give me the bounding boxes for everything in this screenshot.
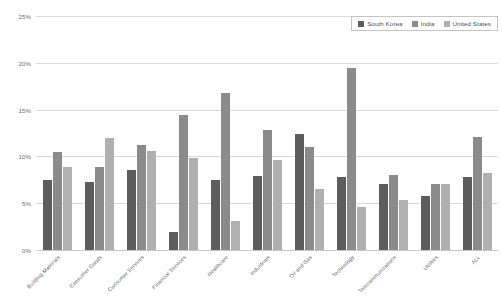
- y-tick-label: 20%: [19, 59, 32, 66]
- bar: [399, 200, 408, 250]
- x-axis-label: Building Materials: [26, 254, 62, 290]
- bar-group: [162, 16, 204, 250]
- bar: [169, 232, 178, 250]
- x-axis-label: Oil and Gas: [288, 254, 313, 279]
- bar: [211, 180, 220, 250]
- legend-label: India: [421, 20, 435, 27]
- y-axis: 0%5%10%15%20%25%: [0, 0, 36, 250]
- bar: [347, 68, 356, 250]
- x-label-cell: Healthcare: [204, 252, 246, 308]
- bar-group: [246, 16, 288, 250]
- x-axis-label: Healthcare: [206, 254, 229, 277]
- legend-swatch-icon: [358, 21, 364, 27]
- bar: [137, 145, 146, 250]
- bar: [127, 170, 136, 250]
- y-tick-label: 15%: [19, 106, 32, 113]
- bar: [473, 137, 482, 250]
- bar: [263, 130, 272, 250]
- bar: [221, 93, 230, 250]
- bar: [431, 184, 440, 250]
- x-axis-label: ALL: [470, 254, 481, 265]
- bar: [463, 177, 472, 250]
- bar: [253, 176, 262, 250]
- bar: [305, 147, 314, 250]
- bar-groups: [36, 16, 498, 250]
- bar-group: [36, 16, 78, 250]
- bar: [105, 138, 114, 250]
- bar: [189, 158, 198, 250]
- x-axis-label: Industrials: [249, 254, 271, 276]
- bar-group: [120, 16, 162, 250]
- bar: [379, 184, 388, 250]
- y-tick-label: 5%: [22, 200, 31, 207]
- legend-label: South Korea: [367, 20, 403, 27]
- bar-chart: 0%5%10%15%20%25% Building MaterialsConsu…: [0, 0, 502, 308]
- bar-group: [414, 16, 456, 250]
- chart-legend: South KoreaIndiaUnited States: [351, 16, 498, 31]
- x-label-cell: Utilities: [414, 252, 456, 308]
- x-axis-label: Technology: [331, 254, 355, 278]
- x-label-cell: Oil and Gas: [288, 252, 330, 308]
- x-axis-label: Utilities: [422, 254, 439, 271]
- bar: [421, 196, 430, 250]
- legend-item[interactable]: United States: [444, 20, 491, 27]
- bar: [85, 182, 94, 250]
- bar: [63, 167, 72, 250]
- x-label-cell: ALL: [456, 252, 498, 308]
- legend-swatch-icon: [412, 21, 418, 27]
- x-label-cell: Financial Services: [162, 252, 204, 308]
- bar: [315, 189, 324, 250]
- legend-item[interactable]: South Korea: [358, 20, 403, 27]
- bar: [179, 115, 188, 250]
- bar: [147, 151, 156, 250]
- bar: [483, 173, 492, 250]
- bar: [389, 175, 398, 250]
- y-tick-label: 25%: [19, 13, 32, 20]
- bar: [357, 207, 366, 250]
- bar-group: [456, 16, 498, 250]
- bar: [337, 177, 346, 250]
- bar: [43, 180, 52, 250]
- axis-baseline: [36, 250, 498, 251]
- bar-group: [372, 16, 414, 250]
- bar-group: [78, 16, 120, 250]
- bar: [441, 184, 450, 250]
- x-label-cell: Industrials: [246, 252, 288, 308]
- bar: [95, 167, 104, 250]
- bar: [273, 160, 282, 250]
- legend-swatch-icon: [444, 21, 450, 27]
- bar-group: [288, 16, 330, 250]
- plot-area: [36, 16, 498, 250]
- y-tick-label: 0%: [22, 247, 31, 254]
- bar: [53, 152, 62, 250]
- y-tick-label: 10%: [19, 153, 32, 160]
- bar: [231, 221, 240, 250]
- legend-label: United States: [453, 20, 491, 27]
- bar-group: [330, 16, 372, 250]
- x-axis-labels: Building MaterialsConsumer GoodsConsumer…: [36, 252, 498, 308]
- bar-group: [204, 16, 246, 250]
- legend-item[interactable]: India: [412, 20, 435, 27]
- x-label-cell: Telecommunications: [372, 252, 414, 308]
- bar: [295, 134, 304, 250]
